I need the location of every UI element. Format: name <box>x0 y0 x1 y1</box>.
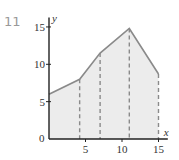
y-tick-label: 5 <box>40 96 46 108</box>
origin-label: 0 <box>39 132 45 144</box>
x-tick-label: 5 <box>83 143 89 155</box>
x-axis-label: x <box>163 126 169 138</box>
y-tick-label: 15 <box>34 21 46 33</box>
area-fill <box>49 28 159 139</box>
x-tick-label: 15 <box>153 143 165 155</box>
y-tick-label: 10 <box>34 58 46 70</box>
x-tick-label: 10 <box>117 143 129 155</box>
y-axis-label: y <box>51 12 57 24</box>
area-chart: xy0 5101551015 <box>0 0 179 160</box>
